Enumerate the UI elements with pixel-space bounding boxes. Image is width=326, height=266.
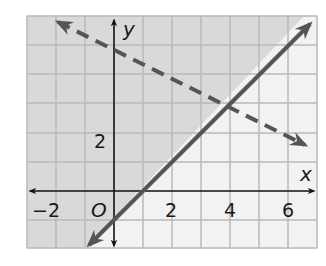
y-axis-label: y xyxy=(122,17,136,41)
x-tick-4: 4 xyxy=(224,199,236,221)
x-tick-6: 6 xyxy=(282,199,294,221)
origin-label: O xyxy=(91,198,107,222)
x-axis-label: x xyxy=(299,162,312,186)
x-tick-2: 2 xyxy=(165,199,177,221)
coordinate-plane: y x 2 −2 O 2 4 6 xyxy=(0,0,326,266)
y-tick-2: 2 xyxy=(94,130,106,152)
x-tick-neg2: −2 xyxy=(32,199,60,221)
